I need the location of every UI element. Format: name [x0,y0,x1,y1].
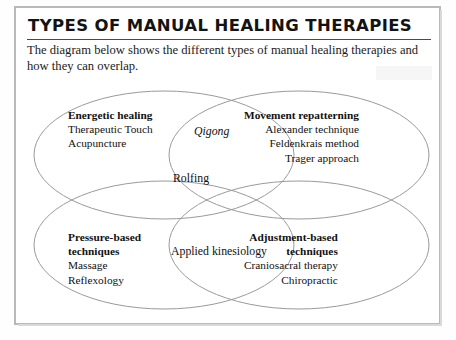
overlap-label-qigong: Qigong [194,124,229,139]
group-heading-pressure-line1: Pressure-based [68,230,141,244]
overlap-label-applied-kinesiology: Applied kinesiology [171,244,267,259]
group-item: Alexander technique [244,122,359,136]
group-item: Feldenkrais method [244,136,359,150]
overlap-label-rolfing: Rolfing [173,171,209,186]
group-item: Trager approach [244,151,359,165]
group-item: Reflexology [68,273,141,287]
group-heading-energetic: Energetic healing [68,108,153,122]
group-heading-adjustment-line1: Adjustment-based [244,230,338,244]
venn-diagram: Energetic healing Therapeutic Touch Acup… [16,70,439,323]
group-heading-movement: Movement repatterning [244,108,359,122]
venn-group-energetic: Energetic healing Therapeutic Touch Acup… [68,108,153,151]
group-item: Chiropractic [244,273,338,287]
title-divider [27,39,431,40]
group-heading-pressure-line2: techniques [68,244,141,258]
venn-group-movement: Movement repatterning Alexander techniqu… [244,108,359,165]
group-item: Massage [68,258,141,272]
document-page: TYPES OF MANUAL HEALING THERAPIES The di… [0,0,456,340]
group-item: Acupuncture [68,136,153,150]
page-title: TYPES OF MANUAL HEALING THERAPIES [28,16,412,35]
group-item: Therapeutic Touch [68,122,153,136]
group-item: Craniosacral therapy [244,258,338,272]
venn-group-pressure: Pressure-based techniques Massage Reflex… [68,230,141,287]
content-frame: TYPES OF MANUAL HEALING THERAPIES The di… [14,6,441,325]
